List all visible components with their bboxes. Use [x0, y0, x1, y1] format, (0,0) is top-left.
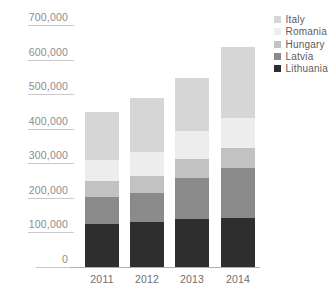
bar-segment-hungary[interactable]: [130, 176, 164, 193]
y-axis-tick-label: 0: [0, 254, 68, 265]
legend-item-romania[interactable]: Romania: [274, 26, 328, 38]
bar-segment-lithuania[interactable]: [221, 218, 255, 267]
y-axis-tick-label: 600,000: [0, 47, 68, 58]
legend-label-hungary: Hungary: [286, 39, 325, 50]
y-axis-tick-label: 300,000: [0, 150, 68, 161]
x-axis-line: [70, 267, 260, 268]
bar-2014[interactable]: [221, 47, 255, 267]
gridline: [28, 232, 74, 233]
bar-segment-italy[interactable]: [130, 98, 164, 152]
bar-segment-hungary[interactable]: [175, 159, 209, 178]
legend-label-romania: Romania: [286, 26, 327, 37]
legend-label-latvia: Latvia: [286, 51, 314, 62]
bar-2011[interactable]: [85, 112, 119, 267]
y-axis-tick-label: 200,000: [0, 185, 68, 196]
x-axis-tick-label-2013: 2013: [168, 273, 216, 285]
bar-2013[interactable]: [175, 78, 209, 267]
legend-swatch-italy: [274, 16, 281, 23]
stacked-bar-chart: ItalyRomaniaHungaryLatviaLithuania 0100,…: [0, 0, 330, 300]
gridline: [28, 25, 74, 26]
bar-segment-latvia[interactable]: [175, 178, 209, 218]
legend-swatch-romania: [274, 28, 281, 35]
y-axis-tick-label: 100,000: [0, 219, 68, 230]
bar-segment-italy[interactable]: [85, 112, 119, 160]
y-axis-tick-label: 700,000: [0, 12, 68, 23]
legend-item-hungary[interactable]: Hungary: [274, 38, 328, 50]
legend-label-lithuania: Lithuania: [286, 63, 328, 74]
bar-segment-latvia[interactable]: [130, 193, 164, 222]
legend-swatch-lithuania: [274, 65, 281, 72]
bar-segment-italy[interactable]: [175, 78, 209, 131]
y-axis-tick-label: 500,000: [0, 81, 68, 92]
legend-item-italy[interactable]: Italy: [274, 14, 328, 26]
gridline: [36, 267, 70, 268]
x-axis-tick-label-2011: 2011: [78, 273, 126, 285]
gridline: [28, 94, 74, 95]
bar-segment-romania[interactable]: [175, 131, 209, 159]
legend-swatch-latvia: [274, 53, 281, 60]
bar-segment-hungary[interactable]: [85, 181, 119, 197]
bar-segment-hungary[interactable]: [221, 148, 255, 168]
bar-segment-romania[interactable]: [85, 160, 119, 181]
chart-legend: ItalyRomaniaHungaryLatviaLithuania: [274, 14, 328, 75]
legend-item-latvia[interactable]: Latvia: [274, 51, 328, 63]
legend-swatch-hungary: [274, 41, 281, 48]
bar-segment-lithuania[interactable]: [175, 219, 209, 267]
legend-label-italy: Italy: [286, 14, 305, 25]
x-axis-tick-label-2012: 2012: [123, 273, 171, 285]
x-axis-tick-label-2014: 2014: [214, 273, 262, 285]
bar-segment-italy[interactable]: [221, 47, 255, 118]
bar-2012[interactable]: [130, 98, 164, 267]
bar-segment-romania[interactable]: [221, 118, 255, 148]
bar-segment-lithuania[interactable]: [85, 224, 119, 267]
bar-segment-latvia[interactable]: [85, 197, 119, 224]
gridline: [28, 60, 74, 61]
bar-segment-romania[interactable]: [130, 152, 164, 176]
gridline: [28, 129, 74, 130]
gridline: [28, 198, 74, 199]
gridline: [28, 163, 74, 164]
y-axis-tick-label: 400,000: [0, 116, 68, 127]
legend-item-lithuania[interactable]: Lithuania: [274, 63, 328, 75]
bar-segment-latvia[interactable]: [221, 168, 255, 217]
bar-segment-lithuania[interactable]: [130, 222, 164, 267]
